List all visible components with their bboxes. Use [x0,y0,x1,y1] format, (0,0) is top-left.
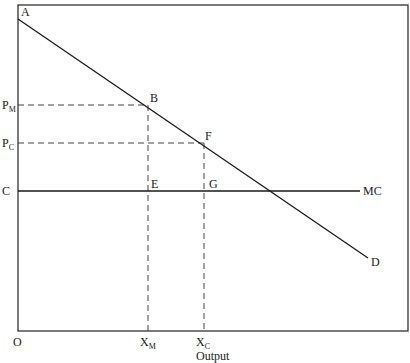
plot-frame [18,5,408,331]
label-e: E [151,177,158,191]
label-d: D [371,255,380,269]
label-pc: PC [2,136,14,152]
label-mc: MC [363,184,382,198]
x-axis-title: Output [196,349,230,363]
demand-line [18,19,368,258]
label-f: F [205,129,212,143]
monopoly-vs-competition-diagram: A D C MC B F E G PM PC O XM XC Output [0,0,410,363]
label-xm: XM [140,335,156,351]
label-pm: PM [2,98,16,114]
label-g: G [209,177,218,191]
label-c: C [2,184,10,198]
label-origin: O [13,335,22,349]
label-a: A [21,5,30,19]
label-b: B [150,91,158,105]
